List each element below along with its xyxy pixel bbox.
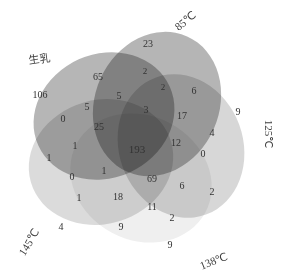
venn-region-count: 1 bbox=[102, 165, 107, 176]
venn-region-count: 6 bbox=[180, 180, 185, 191]
venn-region-count: 1 bbox=[47, 152, 52, 163]
venn-region-count: 5 bbox=[117, 90, 122, 101]
venn-region-count: 6 bbox=[192, 85, 197, 96]
venn-region-count: 2 bbox=[170, 212, 175, 223]
venn-region-count: 0 bbox=[61, 113, 66, 124]
venn-set-shapes bbox=[13, 11, 264, 267]
venn-region-count: 1 bbox=[77, 192, 82, 203]
venn-set-label-raw: 生乳 bbox=[28, 50, 52, 66]
venn-region-count: 2 bbox=[143, 66, 148, 76]
venn-region-count: 193 bbox=[129, 143, 146, 155]
venn-region-count: 1 bbox=[73, 140, 78, 151]
venn-region-count: 2 bbox=[210, 186, 215, 197]
venn-region-count: 25 bbox=[94, 121, 104, 132]
venn-region-count: 4 bbox=[210, 127, 215, 138]
venn-region-count: 4 bbox=[59, 221, 64, 232]
venn-region-count: 0 bbox=[201, 148, 206, 159]
venn-region-count: 9 bbox=[236, 106, 241, 117]
venn-region-count: 9 bbox=[168, 239, 173, 250]
venn-region-count: 12 bbox=[171, 137, 181, 148]
venn-svg: 1062399465226550253174011193120169621181… bbox=[0, 0, 283, 278]
venn-region-count: 106 bbox=[33, 89, 48, 100]
venn-region-count: 65 bbox=[93, 71, 103, 82]
venn-region-count: 9 bbox=[119, 221, 124, 232]
venn-region-count: 11 bbox=[147, 201, 157, 212]
venn-set-label-t138: 138℃ bbox=[198, 250, 229, 272]
venn-region-count: 5 bbox=[85, 101, 90, 112]
venn-region-count: 2 bbox=[161, 82, 166, 92]
venn-region-count: 23 bbox=[143, 38, 153, 49]
venn-region-count: 0 bbox=[70, 171, 75, 182]
venn-region-count: 17 bbox=[177, 110, 187, 121]
venn-set-label-t85: 85℃ bbox=[172, 9, 198, 33]
venn-set-label-t125: 125℃ bbox=[263, 120, 275, 149]
venn-region-count: 18 bbox=[113, 191, 123, 202]
venn-region-count: 3 bbox=[144, 104, 149, 115]
venn-diagram: 1062399465226550253174011193120169621181… bbox=[0, 0, 283, 278]
venn-set-label-t145: 145℃ bbox=[16, 227, 41, 258]
venn-region-count: 69 bbox=[147, 173, 157, 184]
